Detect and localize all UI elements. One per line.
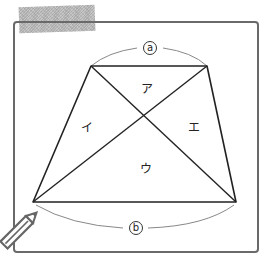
side-label-a: a	[143, 41, 157, 55]
region-label-a: ア	[141, 83, 153, 95]
trapezoid-outline	[33, 66, 236, 202]
region-label-u: ウ	[140, 163, 152, 175]
region-label-e: エ	[188, 122, 200, 134]
diagram-stage: a b ア イ ウ エ	[0, 0, 267, 259]
bottom-arc-right	[148, 205, 234, 228]
top-arc-left	[91, 48, 137, 66]
region-label-i: イ	[81, 122, 93, 134]
trapezoid-diagram	[0, 0, 267, 259]
side-label-b: b	[129, 221, 143, 235]
diagonal-tr-bl	[33, 66, 207, 202]
top-arc-right	[163, 48, 207, 66]
diagonal-tl-br	[91, 66, 236, 202]
pencil-icon	[0, 209, 40, 249]
bottom-arc-left	[36, 205, 123, 228]
